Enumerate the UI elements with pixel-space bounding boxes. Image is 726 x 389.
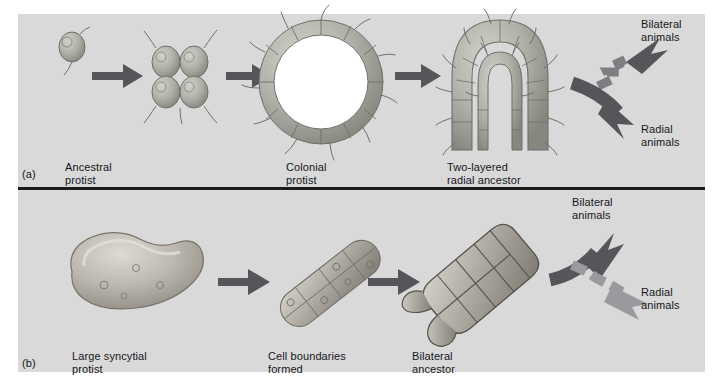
- caption-two-layered-radial-ancestor: Two-layered radial ancestor: [447, 161, 521, 186]
- label-a-radial-animals: Radial animals: [641, 123, 680, 148]
- panel-divider: [18, 187, 705, 190]
- panel-b-label: (b): [22, 357, 36, 369]
- caption-cell-boundaries-formed: Cell boundaries formed: [268, 350, 346, 375]
- caption-large-syncytial-protist: Large syncytial protist: [72, 350, 147, 375]
- label-b-radial-animals: Radial animals: [641, 286, 680, 311]
- caption-colonial-protist: Colonial protist: [286, 161, 327, 186]
- panel-a-label: (a): [22, 168, 36, 180]
- panel-a: [18, 14, 705, 188]
- label-a-bilateral-animals: Bilateral animals: [641, 18, 682, 43]
- caption-ancestral-protist: Ancestral protist: [65, 161, 112, 186]
- label-b-bilateral-animals: Bilateral animals: [572, 196, 613, 221]
- figure-canvas: (a) Ancestral protist Colonial protist T…: [0, 0, 726, 389]
- caption-bilateral-ancestor: Bilateral ancestor: [412, 350, 455, 375]
